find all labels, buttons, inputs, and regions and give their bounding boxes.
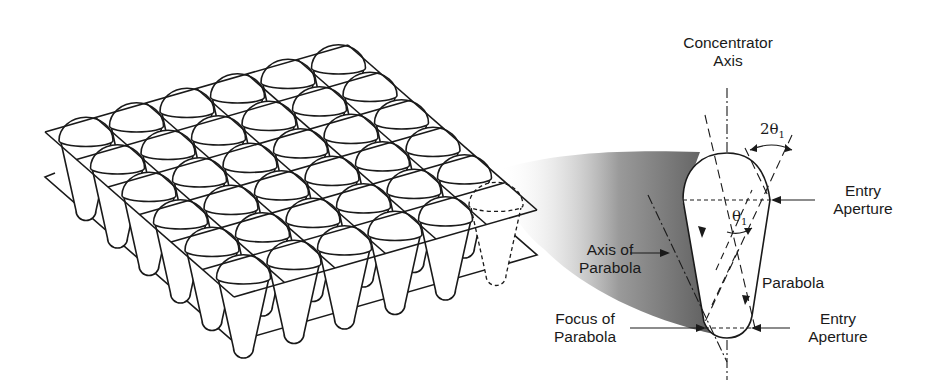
dome [59,117,113,146]
label-line: Parabola [762,274,824,292]
label-acceptance-angle: 2θ1 [760,120,785,144]
concentrator-array [45,45,537,358]
dome [160,88,214,117]
label-line: Concentrator [680,34,776,52]
label-parabola: Parabola [762,274,824,292]
label-focus-of-parabola: Focus of Parabola [540,310,630,346]
label-line: Axis [680,52,776,70]
label-line: Aperture [818,200,908,218]
label-line: Axis of [570,241,650,259]
cone-body [320,251,370,329]
cone-body [471,208,521,286]
label-line: Parabola [540,328,630,346]
cone-body [219,280,269,358]
label-text: 2θ [760,120,779,138]
label-half-angle: θ1 [732,207,747,231]
label-entry-aperture-top: Entry Aperture [818,182,908,218]
label-text: θ [732,207,741,225]
label-concentrator-axis: Concentrator Axis [680,34,776,70]
label-line: Entry [793,310,883,328]
dome [261,59,315,88]
label-axis-of-parabola: Axis of Parabola [570,241,650,277]
dome [211,74,265,103]
cone-body [370,237,420,315]
dome [312,45,366,74]
cone-body [269,266,319,344]
label-sub: 1 [741,216,747,227]
label-line: Entry [818,182,908,200]
cone-body [421,222,471,300]
label-entry-aperture-bottom: Entry Aperture [793,310,883,346]
label-line: Aperture [793,328,883,346]
label-sub: 1 [779,129,785,140]
label-line: Parabola [570,259,650,277]
label-line: Focus of [540,310,630,328]
dome [110,103,164,132]
